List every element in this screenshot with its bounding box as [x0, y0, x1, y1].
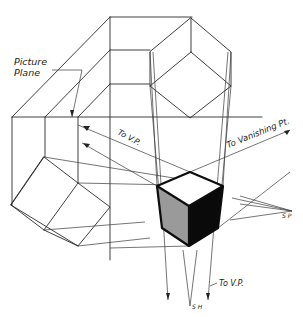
side-view-cube: [11, 157, 110, 246]
top-view-cube: [150, 18, 231, 118]
labels: Picture Plane To V.P. To Vanishing Pt. T…: [14, 56, 292, 310]
sp-right-label: S P: [282, 212, 292, 219]
sp-bottom-label: S H: [192, 303, 203, 310]
to-vp-upper-label: To V.P.: [116, 128, 142, 148]
perspective-cube-diagram: Picture Plane To V.P. To Vanishing Pt. T…: [0, 0, 303, 317]
picture-plane-label-1: Picture: [14, 56, 47, 67]
to-vanishing-pt-label: To Vanishing Pt.: [225, 115, 291, 149]
to-vp-lower-label: To V.P.: [219, 279, 244, 288]
picture-plane-label-2: Plane: [14, 67, 40, 78]
